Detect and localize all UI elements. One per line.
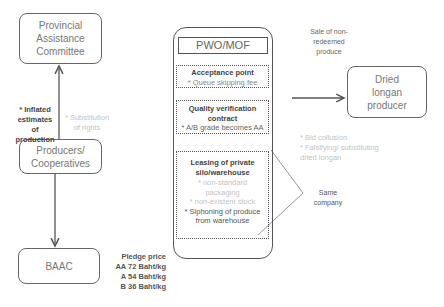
provincial-committee-node: Provincial Assistance Committee xyxy=(19,13,102,64)
pwo-mof-title: PWO/MOF xyxy=(178,37,268,54)
section-item: * Queue skipping fee xyxy=(177,78,268,88)
section-title: Leasing of private silo/warehouse xyxy=(180,158,265,177)
same-company-note: Same company xyxy=(313,188,343,208)
node-label: Dried longan producer xyxy=(360,73,414,112)
section-item: * Siphoning of produce from warehouse xyxy=(180,207,265,226)
quality-verification-section: Quality verification contract * A/B grad… xyxy=(176,100,269,134)
pledge-price-block: Pledge price AA 72 Baht/kg A 54 Baht/kg … xyxy=(110,252,166,292)
baac-node: BAAC xyxy=(18,248,100,284)
sale-note: Sale of non-redeemed produce xyxy=(306,27,352,57)
inflated-estimates-note: * Inflated estimates of production xyxy=(14,105,56,145)
pledge-b: B 36 Baht/kg xyxy=(110,282,166,292)
acceptance-point-section: Acceptance point * Queue skipping fee xyxy=(176,65,269,88)
section-title: Quality verification contract xyxy=(177,104,268,123)
pledge-title: Pledge price xyxy=(110,252,166,262)
node-label: BAAC xyxy=(45,261,72,272)
pledge-aa: AA 72 Baht/kg xyxy=(110,262,166,272)
section-item: * A/B grade becomes AA xyxy=(177,123,268,133)
pwo-title-label: PWO/MOF xyxy=(196,39,250,51)
bid-collusion-note: * Bid collusion xyxy=(300,133,390,143)
dried-longan-node: Dried longan producer xyxy=(347,66,427,118)
substitution-note: * Substitution of rights xyxy=(62,113,112,133)
leasing-section: Leasing of private silo/warehouse * non-… xyxy=(176,151,269,239)
section-title: Acceptance point xyxy=(177,68,268,78)
falsifying-note: * Falsifying/ substituting dried longan xyxy=(300,143,385,163)
pledge-a: A 54 Baht/kg xyxy=(110,272,166,282)
section-item: * non-standard packaging xyxy=(180,178,265,197)
section-item: * non-existent stock xyxy=(180,197,265,207)
node-label: Provincial Assistance Committee xyxy=(26,19,95,58)
node-label: Producers/ Cooperatives xyxy=(28,144,93,170)
